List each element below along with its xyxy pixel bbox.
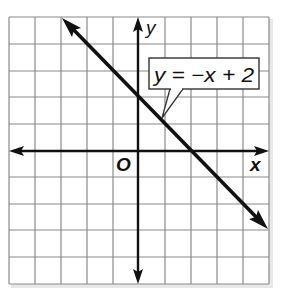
y-axis-label: y (144, 17, 157, 38)
equation-label: y = −x + 2 (152, 64, 254, 86)
x-axis-label: x (249, 154, 262, 175)
coordinate-graph: y x O y = −x + 2 (0, 0, 282, 298)
origin-label: O (116, 154, 131, 175)
